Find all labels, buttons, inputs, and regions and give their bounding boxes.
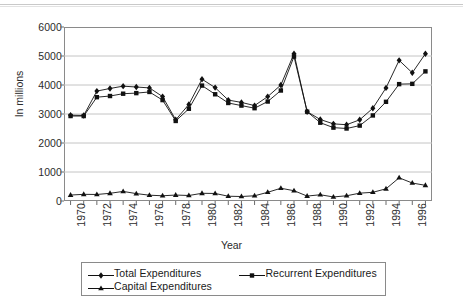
x-tick-label: 1992 [364, 203, 376, 227]
square-marker-icon [423, 69, 427, 73]
square-marker-icon [239, 267, 265, 278]
x-tick-label: 1978 [180, 203, 192, 227]
square-marker-icon [174, 119, 178, 123]
y-tick-label: 1000 [4, 167, 62, 178]
square-marker-icon [226, 101, 230, 105]
square-marker-icon [305, 109, 309, 113]
square-marker-icon [266, 99, 270, 103]
x-tick-label: 1980 [206, 203, 218, 227]
x-tick-label: 1988 [311, 203, 323, 227]
y-tick-label: 6000 [4, 22, 62, 33]
triangle-marker-icon [199, 190, 205, 195]
legend-row-1: Total Expenditures Recurrent Expenditure… [88, 266, 381, 279]
diamond-marker-icon [121, 83, 126, 89]
triangle-marker-icon [239, 194, 245, 199]
legend-entry-recurrent-expenditures: Recurrent Expenditures [239, 266, 381, 279]
triangle-marker-icon [98, 286, 104, 291]
chart-legend: Total Expenditures Recurrent Expenditure… [81, 262, 386, 296]
x-tick-label: 1974 [127, 203, 139, 227]
x-tick-label: 1970 [75, 203, 87, 227]
triangle-marker-icon [212, 190, 218, 195]
x-tick-label: 1976 [153, 203, 165, 227]
x-tick-label: 1982 [232, 203, 244, 227]
chart-svg [64, 27, 432, 201]
diamond-marker-icon [94, 88, 99, 94]
square-marker-icon [239, 103, 243, 107]
square-marker-icon [331, 125, 335, 129]
square-marker-icon [68, 114, 72, 118]
triangle-marker-icon [396, 175, 402, 180]
series-2 [68, 54, 427, 130]
square-marker-icon [160, 98, 164, 102]
legend-label: Recurrent Expenditures [265, 267, 376, 279]
y-axis-tick-labels: 0100020003000400050006000 [0, 27, 62, 201]
square-marker-icon [292, 54, 296, 58]
triangle-marker-icon [317, 192, 323, 197]
legend-entry-capital-expenditures: Capital Expenditures [88, 279, 243, 292]
square-marker-icon [279, 88, 283, 92]
x-axis-tick-labels: 1970197219741976197819801982198419861988… [64, 203, 432, 237]
square-marker-icon [344, 126, 348, 130]
triangle-marker-icon [81, 191, 87, 196]
triangle-marker-icon [68, 192, 74, 197]
triangle-marker-icon [278, 185, 284, 190]
square-marker-icon [95, 95, 99, 99]
square-marker-icon [134, 91, 138, 95]
square-marker-icon [187, 107, 191, 111]
chart-figure: In millions 0100020003000400050006000 19… [0, 0, 463, 308]
triangle-marker-icon [120, 188, 126, 193]
x-tick-label: 1984 [259, 203, 271, 227]
triangle-marker-icon [173, 192, 179, 197]
square-marker-icon [397, 82, 401, 86]
legend-row-2: Capital Expenditures [88, 279, 381, 292]
y-tick-label: 0 [4, 196, 62, 207]
square-marker-icon [200, 83, 204, 87]
diamond-marker-icon [265, 93, 270, 99]
page-rule-top-secondary [0, 6, 463, 7]
square-marker-icon [318, 121, 322, 125]
y-tick-label: 4000 [4, 80, 62, 91]
y-tick-label: 3000 [4, 109, 62, 120]
x-tick-label: 1990 [337, 203, 349, 227]
x-axis-title: Year [0, 239, 463, 251]
diamond-marker-icon [88, 267, 114, 278]
triangle-marker-icon [383, 186, 389, 191]
square-marker-icon [371, 113, 375, 117]
series-3 [68, 175, 428, 199]
x-tick-label: 1996 [416, 203, 428, 227]
triangle-marker-icon [160, 193, 166, 198]
square-marker-icon [252, 106, 256, 110]
diamond-marker-icon [99, 272, 104, 278]
legend-label: Total Expenditures [114, 267, 201, 279]
x-tick-label: 1972 [101, 203, 113, 227]
square-marker-icon [358, 123, 362, 127]
x-tick-label: 1986 [285, 203, 297, 227]
square-marker-icon [410, 82, 414, 86]
square-marker-icon [121, 92, 125, 96]
triangle-marker-icon [88, 280, 114, 291]
square-marker-icon [147, 90, 151, 94]
square-marker-icon [250, 273, 254, 277]
diamond-marker-icon [200, 76, 205, 82]
legend-entry-total-expenditures: Total Expenditures [88, 266, 239, 279]
diamond-marker-icon [108, 85, 113, 91]
square-marker-icon [213, 92, 217, 96]
y-tick-label: 2000 [4, 138, 62, 149]
diamond-marker-icon [357, 117, 362, 123]
legend-label: Capital Expenditures [114, 280, 212, 292]
square-marker-icon [384, 100, 388, 104]
page-rule-top [0, 4, 463, 5]
square-marker-icon [108, 94, 112, 98]
plot-area [64, 27, 432, 201]
y-tick-label: 5000 [4, 51, 62, 62]
square-marker-icon [82, 114, 86, 118]
x-tick-label: 1994 [390, 203, 402, 227]
